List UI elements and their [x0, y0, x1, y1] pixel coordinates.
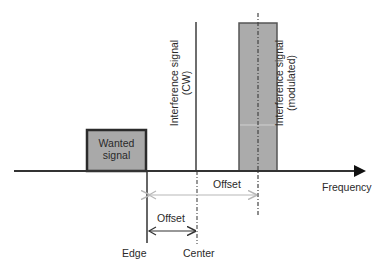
wanted-signal-label-line1: Wanted — [87, 137, 146, 149]
frequency-axis-label: Frequency — [322, 181, 372, 193]
cw-label-line2: (CW) — [180, 23, 192, 143]
wanted-signal-label: Wanted signal — [87, 137, 146, 161]
offset-label-lower: Offset — [157, 212, 185, 224]
cw-label-line1: Interference signal — [168, 23, 180, 143]
wanted-signal-label-line2: signal — [87, 149, 146, 161]
modulated-interference-label: Interference signal (modulated) — [273, 23, 299, 143]
modulated-label-line2: (modulated) — [285, 23, 297, 143]
frequency-offset-diagram: Wanted signal Interference signal (CW) I… — [0, 0, 385, 271]
axis-arrowhead-icon — [354, 165, 366, 177]
modulated-label-line1: Interference signal — [273, 23, 285, 143]
edge-label: Edge — [122, 247, 147, 259]
offset-label-upper: Offset — [213, 178, 241, 190]
center-label: Center — [183, 247, 215, 259]
cw-interference-label: Interference signal (CW) — [168, 23, 194, 143]
